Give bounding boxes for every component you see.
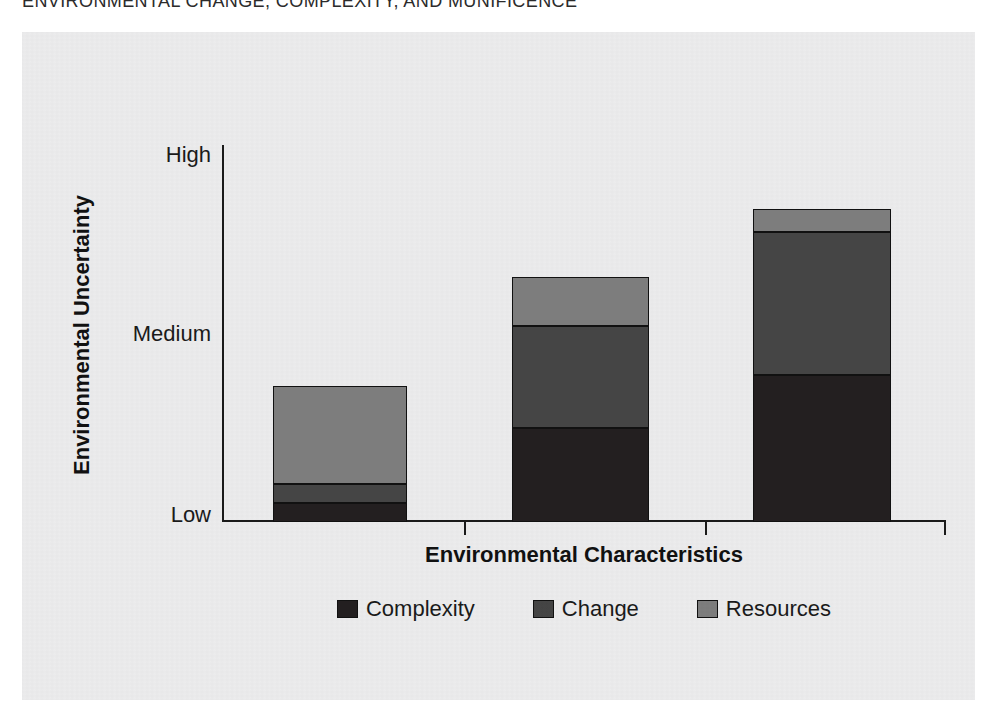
x-axis-tick-1 xyxy=(464,520,466,535)
bar-segment-resources xyxy=(753,209,891,232)
bar-segment-resources xyxy=(273,386,407,484)
bar-segment-complexity xyxy=(512,428,649,522)
y-axis-label-medium: Medium xyxy=(133,323,211,345)
bar-segment-change xyxy=(753,232,891,375)
bar-segment-resources xyxy=(512,277,649,326)
running-header: ENVIRONMENTAL CHANGE, COMPLEXITY, AND MU… xyxy=(22,0,577,12)
legend-swatch-resources xyxy=(697,600,718,618)
legend-item-change[interactable]: Change xyxy=(533,596,639,622)
legend-swatch-change xyxy=(533,600,554,618)
plot-area: High Medium Low Environmental Uncertaint… xyxy=(22,32,975,700)
legend-item-resources[interactable]: Resources xyxy=(697,596,831,622)
x-axis-tick-3 xyxy=(944,520,946,535)
legend-label-resources: Resources xyxy=(726,596,831,622)
legend-label-complexity: Complexity xyxy=(366,596,475,622)
legend: ComplexityChangeResources xyxy=(222,596,946,622)
bar-segment-complexity xyxy=(753,375,891,522)
legend-label-change: Change xyxy=(562,596,639,622)
legend-swatch-complexity xyxy=(337,600,358,618)
bar-group-1 xyxy=(273,386,407,522)
bar-group-3 xyxy=(753,209,891,522)
x-axis-tick-2 xyxy=(705,520,707,535)
legend-item-complexity[interactable]: Complexity xyxy=(337,596,475,622)
y-axis-label-low: Low xyxy=(171,504,211,526)
bar-segment-change xyxy=(273,484,407,503)
figure-panel: High Medium Low Environmental Uncertaint… xyxy=(22,32,975,700)
x-axis-title: Environmental Characteristics xyxy=(222,542,946,568)
y-axis-label-high: High xyxy=(166,144,211,166)
bar-segment-complexity xyxy=(273,503,407,522)
bar-segment-change xyxy=(512,326,649,428)
y-axis-title: Environmental Uncertainty xyxy=(69,185,95,485)
bar-group-2 xyxy=(512,277,649,522)
y-axis-line xyxy=(222,145,224,522)
